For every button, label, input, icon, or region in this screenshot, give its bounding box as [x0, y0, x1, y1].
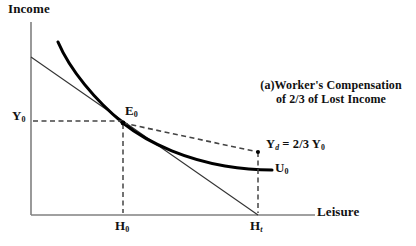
- label-y0: Y0: [12, 109, 26, 122]
- panel-caption: (a)Worker's Compensation of 2/3 of Lost …: [256, 78, 406, 106]
- label-e0-base: E: [125, 103, 134, 118]
- x-axis-title: Leisure: [317, 205, 359, 218]
- yd-point-marker: [256, 150, 260, 154]
- label-u0-subscript: 0: [285, 167, 289, 176]
- economics-figure-panel-a: Income Leisure (a)Worker's Compensation …: [0, 0, 416, 246]
- label-y0-subscript: 0: [22, 115, 26, 124]
- label-h0-subscript: 0: [125, 225, 129, 234]
- label-ht-subscript: t: [260, 225, 262, 234]
- label-u0-base: U: [275, 160, 285, 175]
- label-h0: H0: [115, 219, 129, 232]
- label-h0-base: H: [115, 218, 125, 233]
- label-ht: Ht: [250, 219, 263, 232]
- label-e0-subscript: 0: [134, 110, 138, 119]
- label-u0: U0: [275, 161, 289, 174]
- panel-caption-line-2: of 2/3 of Lost Income: [276, 92, 386, 106]
- label-y0-base: Y: [12, 108, 22, 123]
- label-yd-subscript: d: [275, 143, 279, 152]
- panel-caption-line-1: (a)Worker's Compensation: [260, 78, 401, 92]
- label-e0: E0: [125, 104, 138, 117]
- label-ht-base: H: [250, 218, 260, 233]
- label-yd-base: Y: [266, 137, 275, 151]
- label-yd-tail-subscript: 0: [321, 143, 325, 152]
- label-yd-relation: = 2/3 Y: [279, 137, 321, 151]
- e0-point-marker: [121, 121, 126, 126]
- y-axis-title: Income: [8, 2, 50, 15]
- label-yd-equation: Yd = 2/3 Y0: [266, 138, 325, 151]
